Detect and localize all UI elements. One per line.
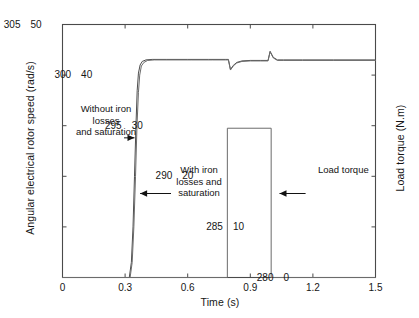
y-tick-label-right: 50: [31, 19, 71, 30]
annotation-line: losses: [64, 115, 148, 127]
x-tick-label: 0.6: [168, 282, 208, 293]
y-tick-label-right: 10: [233, 221, 273, 232]
annotation-line: and saturation: [64, 126, 148, 138]
annotation-line: With iron: [160, 164, 238, 176]
y-axis-label-right: Load torque (N.m): [394, 43, 406, 253]
annotation-line: losses and: [160, 176, 238, 188]
x-tick-label: 1.2: [293, 282, 333, 293]
annotation-with-iron-losses: With iron losses and saturation: [160, 164, 238, 199]
y-tick-label-left: 285: [183, 221, 223, 232]
x-tick-label: 0.9: [230, 282, 270, 293]
chart-canvas: [0, 0, 419, 318]
x-tick-label: 1.5: [356, 282, 396, 293]
annotation-load-torque: Load torque: [318, 164, 408, 176]
figure-container: Angular electrical rotor speed (rad/s) L…: [0, 0, 419, 318]
axes-frame: [63, 25, 376, 278]
annotation-line: saturation: [160, 187, 238, 199]
y-tick-label-left: 305: [0, 19, 21, 30]
annotation-without-iron-losses: Without iron losses and saturation: [64, 103, 148, 138]
annotation-line: Load torque: [318, 164, 408, 176]
y-tick-label-left: 300: [31, 69, 71, 80]
y-tick-label-right: 40: [81, 69, 121, 80]
x-axis-label: Time (s): [160, 296, 280, 308]
annotation-line: Without iron: [64, 103, 148, 115]
y-axis-label-left: Angular electrical rotor speed (rad/s): [24, 30, 36, 266]
x-tick-label: 0: [43, 282, 83, 293]
x-tick-label: 0.3: [105, 282, 145, 293]
